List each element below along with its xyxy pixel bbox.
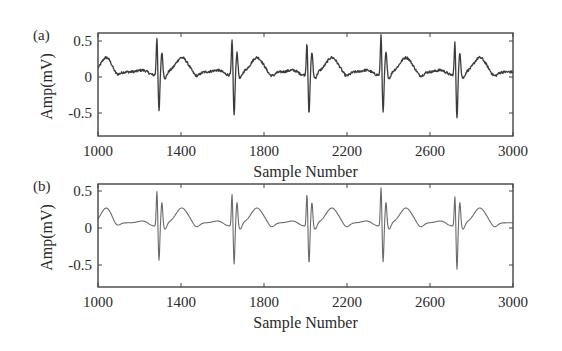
x-tick-label: 1400 — [166, 143, 196, 159]
x-tick-label: 1800 — [249, 294, 279, 310]
panel-a: 1000140018002200260030000.50-0.5Sample N… — [33, 27, 528, 181]
y-tick-label: 0.5 — [73, 183, 92, 199]
y-axis-label: Amp(mV) — [38, 53, 56, 120]
panel-label: (a) — [33, 27, 50, 44]
y-tick-label: -0.5 — [68, 257, 92, 273]
y-tick-label: -0.5 — [68, 105, 92, 121]
x-tick-label: 3000 — [498, 294, 528, 310]
x-tick-label: 1000 — [83, 294, 113, 310]
panel-b: 1000140018002200260030000.50-0.5Sample N… — [33, 178, 528, 332]
x-axis-label: Sample Number — [253, 163, 358, 181]
y-tick-label: 0.5 — [73, 33, 92, 49]
x-tick-label: 1000 — [83, 143, 113, 159]
x-tick-label: 2200 — [332, 143, 362, 159]
x-axis-label: Sample Number — [253, 314, 358, 332]
y-tick-label: 0 — [85, 69, 93, 85]
x-tick-label: 1800 — [249, 143, 279, 159]
signal-line — [98, 188, 513, 269]
x-tick-label: 2600 — [415, 294, 445, 310]
panel-label: (b) — [33, 178, 51, 195]
signal-line — [98, 35, 513, 118]
y-tick-label: 0 — [85, 220, 93, 236]
x-tick-label: 2200 — [332, 294, 362, 310]
x-tick-label: 2600 — [415, 143, 445, 159]
ecg-figure: 1000140018002200260030000.50-0.5Sample N… — [0, 0, 562, 351]
y-axis-label: Amp(mV) — [38, 204, 56, 271]
x-tick-label: 1400 — [166, 294, 196, 310]
x-tick-label: 3000 — [498, 143, 528, 159]
